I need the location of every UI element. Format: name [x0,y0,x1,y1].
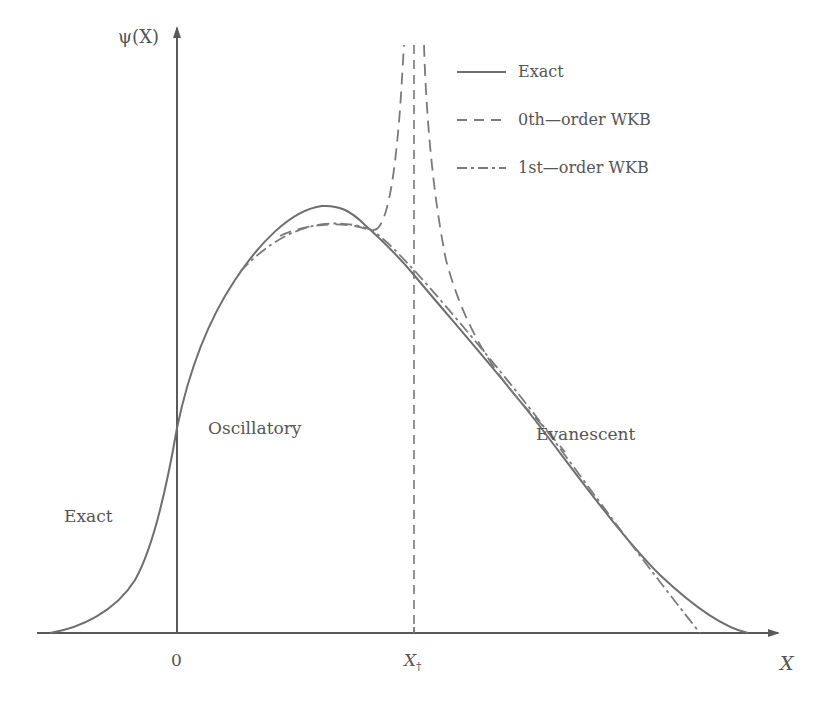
y-axis-label-text: ψ(X) [118,26,159,47]
y-axis-label: ψ(X) [118,26,159,47]
x-tick-turning-subscript: † [416,660,422,673]
zeroth-order-wkb-left-branch [280,45,404,236]
legend-exact-label: Exact [518,62,564,81]
legend-first-label: 1st—order WKB [518,158,649,177]
wkb-chart [0,0,826,705]
x-tick-turning-text: X [404,650,416,670]
x-axis-label-text: X [780,652,794,674]
legend-zeroth-label: 0th—order WKB [518,110,651,129]
x-axis-label: X [780,652,794,674]
x-tick-zero-label: 0 [171,650,182,670]
exact-curve [50,206,748,633]
annotation-oscillatory: Oscillatory [208,418,301,438]
x-tick-zero-text: 0 [171,650,182,670]
annotation-evanescent: Evanescent [536,424,635,444]
annotation-exact: Exact [64,506,113,526]
x-tick-turning-label: X† [404,650,422,673]
zeroth-order-wkb-right-branch [424,45,565,452]
